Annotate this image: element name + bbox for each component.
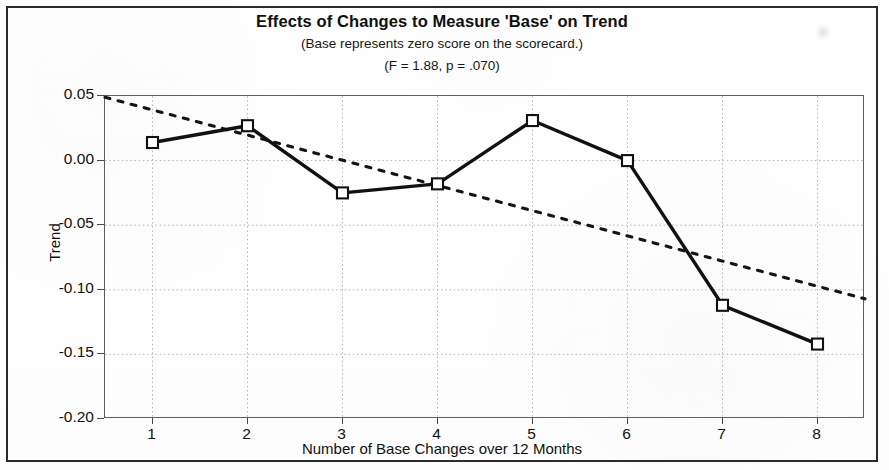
data-point-marker [622, 155, 633, 166]
data-point-marker [242, 120, 253, 131]
data-point-marker [717, 300, 728, 311]
x-tick-label: 2 [217, 426, 277, 442]
chart-title: Effects of Changes to Measure 'Base' on … [6, 11, 878, 31]
data-point-marker [812, 339, 823, 350]
chart-figure: Effects of Changes to Measure 'Base' on … [0, 0, 889, 470]
y-tick-label: -0.15 [28, 344, 94, 360]
y-tick-mark [97, 160, 104, 161]
x-axis-title: Number of Base Changes over 12 Months [6, 440, 878, 457]
x-tick-label: 7 [692, 426, 752, 442]
y-tick-label: 0.00 [28, 151, 94, 167]
y-tick-mark [97, 289, 104, 290]
y-tick-mark [97, 418, 104, 419]
gridlines [105, 96, 865, 419]
chart-subtitle-2: (F = 1.88, p = .070) [6, 56, 878, 75]
plot-area [104, 95, 864, 418]
y-tick-label: -0.20 [28, 409, 94, 425]
x-tick-label: 4 [407, 426, 467, 442]
data-point-marker [337, 187, 348, 198]
x-tick-label: 1 [122, 426, 182, 442]
y-tick-mark [97, 95, 104, 96]
plot-canvas [105, 96, 865, 419]
x-tick-label: 3 [312, 426, 372, 442]
x-tick-label: 5 [502, 426, 562, 442]
data-point-marker [432, 178, 443, 189]
chart-subtitle-1: (Base represents zero score on the score… [6, 34, 878, 53]
x-tick-label: 6 [597, 426, 657, 442]
y-tick-label: -0.10 [28, 280, 94, 296]
y-tick-mark [97, 224, 104, 225]
y-tick-label: 0.05 [28, 86, 94, 102]
y-tick-label: -0.05 [28, 215, 94, 231]
data-point-marker [527, 115, 538, 126]
x-tick-label: 8 [787, 426, 847, 442]
y-tick-mark [97, 353, 104, 354]
fitted-trend-line [105, 97, 865, 299]
title-block: Effects of Changes to Measure 'Base' on … [6, 11, 878, 75]
data-point-marker [147, 137, 158, 148]
